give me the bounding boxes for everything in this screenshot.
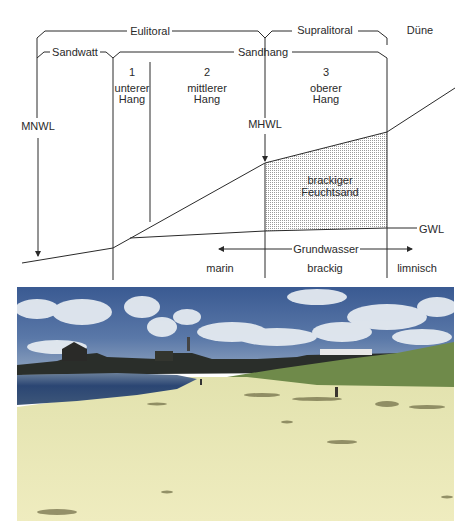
house-center <box>155 351 173 361</box>
groundwater-type-brackig: brackig <box>307 262 342 274</box>
mnwl-label: MNWL <box>21 120 55 132</box>
lighthouse <box>187 337 190 351</box>
grundwasser-label: Grundwasser <box>293 243 359 255</box>
house-left <box>62 349 87 361</box>
groundwater-type-marin: marin <box>206 262 234 274</box>
svg-text:3: 3 <box>323 66 329 78</box>
slope-section-1: 1 unterer Hang <box>115 66 150 105</box>
sandhang-bracket: Sandhang <box>113 46 387 58</box>
beach-zonation-diagram: Eulitoral Supralitoral Düne Sandwatt San… <box>0 0 469 285</box>
person-far <box>200 379 202 385</box>
supralitoral-label: Supralitoral <box>297 24 353 36</box>
white-building <box>320 349 372 355</box>
supralitoral-bracket: Supralitoral <box>265 24 387 45</box>
svg-text:Hang: Hang <box>119 93 145 105</box>
svg-text:2: 2 <box>204 66 210 78</box>
slope-section-2: 2 mittlerer Hang <box>187 66 227 105</box>
brackish-sand-label-2: Feuchtsand <box>301 186 358 198</box>
beach-profile-line <box>22 88 455 263</box>
svg-text:Hang: Hang <box>313 93 339 105</box>
beach-photo <box>17 287 454 521</box>
svg-text:Hang: Hang <box>194 93 220 105</box>
sandhang-label: Sandhang <box>238 46 288 58</box>
brackish-sand-label-1: brackiger <box>307 174 353 186</box>
slope-section-3: 3 oberer Hang <box>310 66 342 105</box>
eulitoral-label: Eulitoral <box>130 25 170 37</box>
svg-text:1: 1 <box>129 66 135 78</box>
eulitoral-bracket: Eulitoral <box>37 25 265 45</box>
person-near <box>335 387 338 397</box>
duene-label: Düne <box>407 24 433 36</box>
mhwl-label: MHWL <box>248 118 282 130</box>
gwl-label: GWL <box>419 223 444 235</box>
groundwater-type-limnisch: limnisch <box>397 262 437 274</box>
sandwatt-bracket: Sandwatt <box>37 46 113 58</box>
sandwatt-label: Sandwatt <box>52 46 98 58</box>
